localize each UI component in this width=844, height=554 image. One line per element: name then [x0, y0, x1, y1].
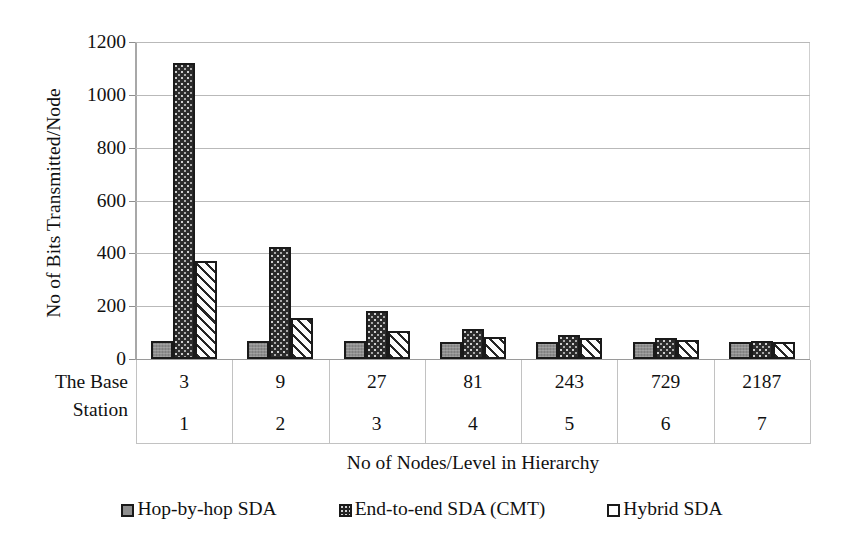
bar-group — [136, 42, 232, 359]
bar[interactable] — [291, 318, 313, 359]
dark-stipple-swatch — [339, 504, 352, 517]
x-axis-level-label: 1 — [136, 414, 232, 434]
bar[interactable] — [773, 342, 795, 359]
y-axis-tick-label: 200 — [0, 296, 126, 316]
legend-item[interactable]: Hop-by-hop SDA — [121, 498, 276, 520]
legend-item-label: Hybrid SDA — [623, 498, 722, 520]
x-axis-level-label: 7 — [714, 414, 810, 434]
x-axis-level-label: 5 — [521, 414, 617, 434]
legend-item[interactable]: End-to-end SDA (CMT) — [339, 498, 546, 520]
bar-group — [714, 42, 810, 359]
x-axis-row-header-line2: Station — [0, 396, 128, 424]
bar-group — [425, 42, 521, 359]
x-axis-node-count-label: 729 — [617, 372, 713, 392]
y-axis-tick-label: 1000 — [0, 85, 126, 105]
bar-group — [329, 42, 425, 359]
y-axis-tick-label: 1200 — [0, 32, 126, 52]
x-axis-category-table: 31922738142435729621877 — [136, 360, 810, 444]
bar-chart: No of Bits Transmitted/Node 020040060080… — [0, 0, 844, 554]
x-table-separator — [810, 360, 811, 444]
y-axis-tick-label: 0 — [0, 349, 126, 369]
bar[interactable] — [580, 338, 602, 359]
bar[interactable] — [633, 342, 655, 359]
white-hatch-swatch — [607, 504, 620, 517]
y-axis-tick-label: 800 — [0, 138, 126, 158]
x-axis-level-label: 2 — [232, 414, 328, 434]
bar[interactable] — [677, 340, 699, 359]
bar[interactable] — [247, 341, 269, 359]
y-axis-tick-label: 600 — [0, 191, 126, 211]
bar-group — [617, 42, 713, 359]
x-axis-row-header: The Base Station — [0, 368, 128, 423]
legend-item[interactable]: Hybrid SDA — [607, 498, 722, 520]
bar[interactable] — [440, 342, 462, 359]
bar[interactable] — [536, 342, 558, 359]
x-table-bottom-border — [136, 443, 810, 444]
bar[interactable] — [462, 329, 484, 359]
x-axis-node-count-label: 243 — [521, 372, 617, 392]
x-axis-node-count-label: 9 — [232, 372, 328, 392]
x-axis-row-header-line1: The Base — [0, 368, 128, 396]
x-axis-level-label: 4 — [425, 414, 521, 434]
x-axis-node-count-label: 81 — [425, 372, 521, 392]
legend-item-label: End-to-end SDA (CMT) — [355, 498, 546, 520]
bar[interactable] — [366, 311, 388, 359]
bar-group — [232, 42, 328, 359]
bar[interactable] — [173, 63, 195, 359]
bar-group — [521, 42, 617, 359]
gray-solid-swatch — [121, 504, 134, 517]
x-axis-level-label: 6 — [617, 414, 713, 434]
bar[interactable] — [388, 331, 410, 359]
legend-item-label: Hop-by-hop SDA — [137, 498, 276, 520]
chart-legend: Hop-by-hop SDAEnd-to-end SDA (CMT)Hybrid… — [0, 498, 844, 520]
bar[interactable] — [151, 341, 173, 359]
bar[interactable] — [729, 342, 751, 359]
y-axis-tick-label: 400 — [0, 243, 126, 263]
bar[interactable] — [751, 341, 773, 359]
x-axis-node-count-label: 3 — [136, 372, 232, 392]
plot-area — [136, 42, 810, 359]
x-axis-node-count-label: 2187 — [714, 372, 810, 392]
x-axis-node-count-label: 27 — [329, 372, 425, 392]
bar[interactable] — [558, 335, 580, 359]
bar[interactable] — [195, 261, 217, 359]
x-axis-title: No of Nodes/Level in Hierarchy — [136, 452, 810, 474]
bar[interactable] — [269, 247, 291, 359]
x-axis-level-label: 3 — [329, 414, 425, 434]
bar[interactable] — [484, 337, 506, 359]
bar[interactable] — [655, 338, 677, 359]
bar[interactable] — [344, 341, 366, 359]
